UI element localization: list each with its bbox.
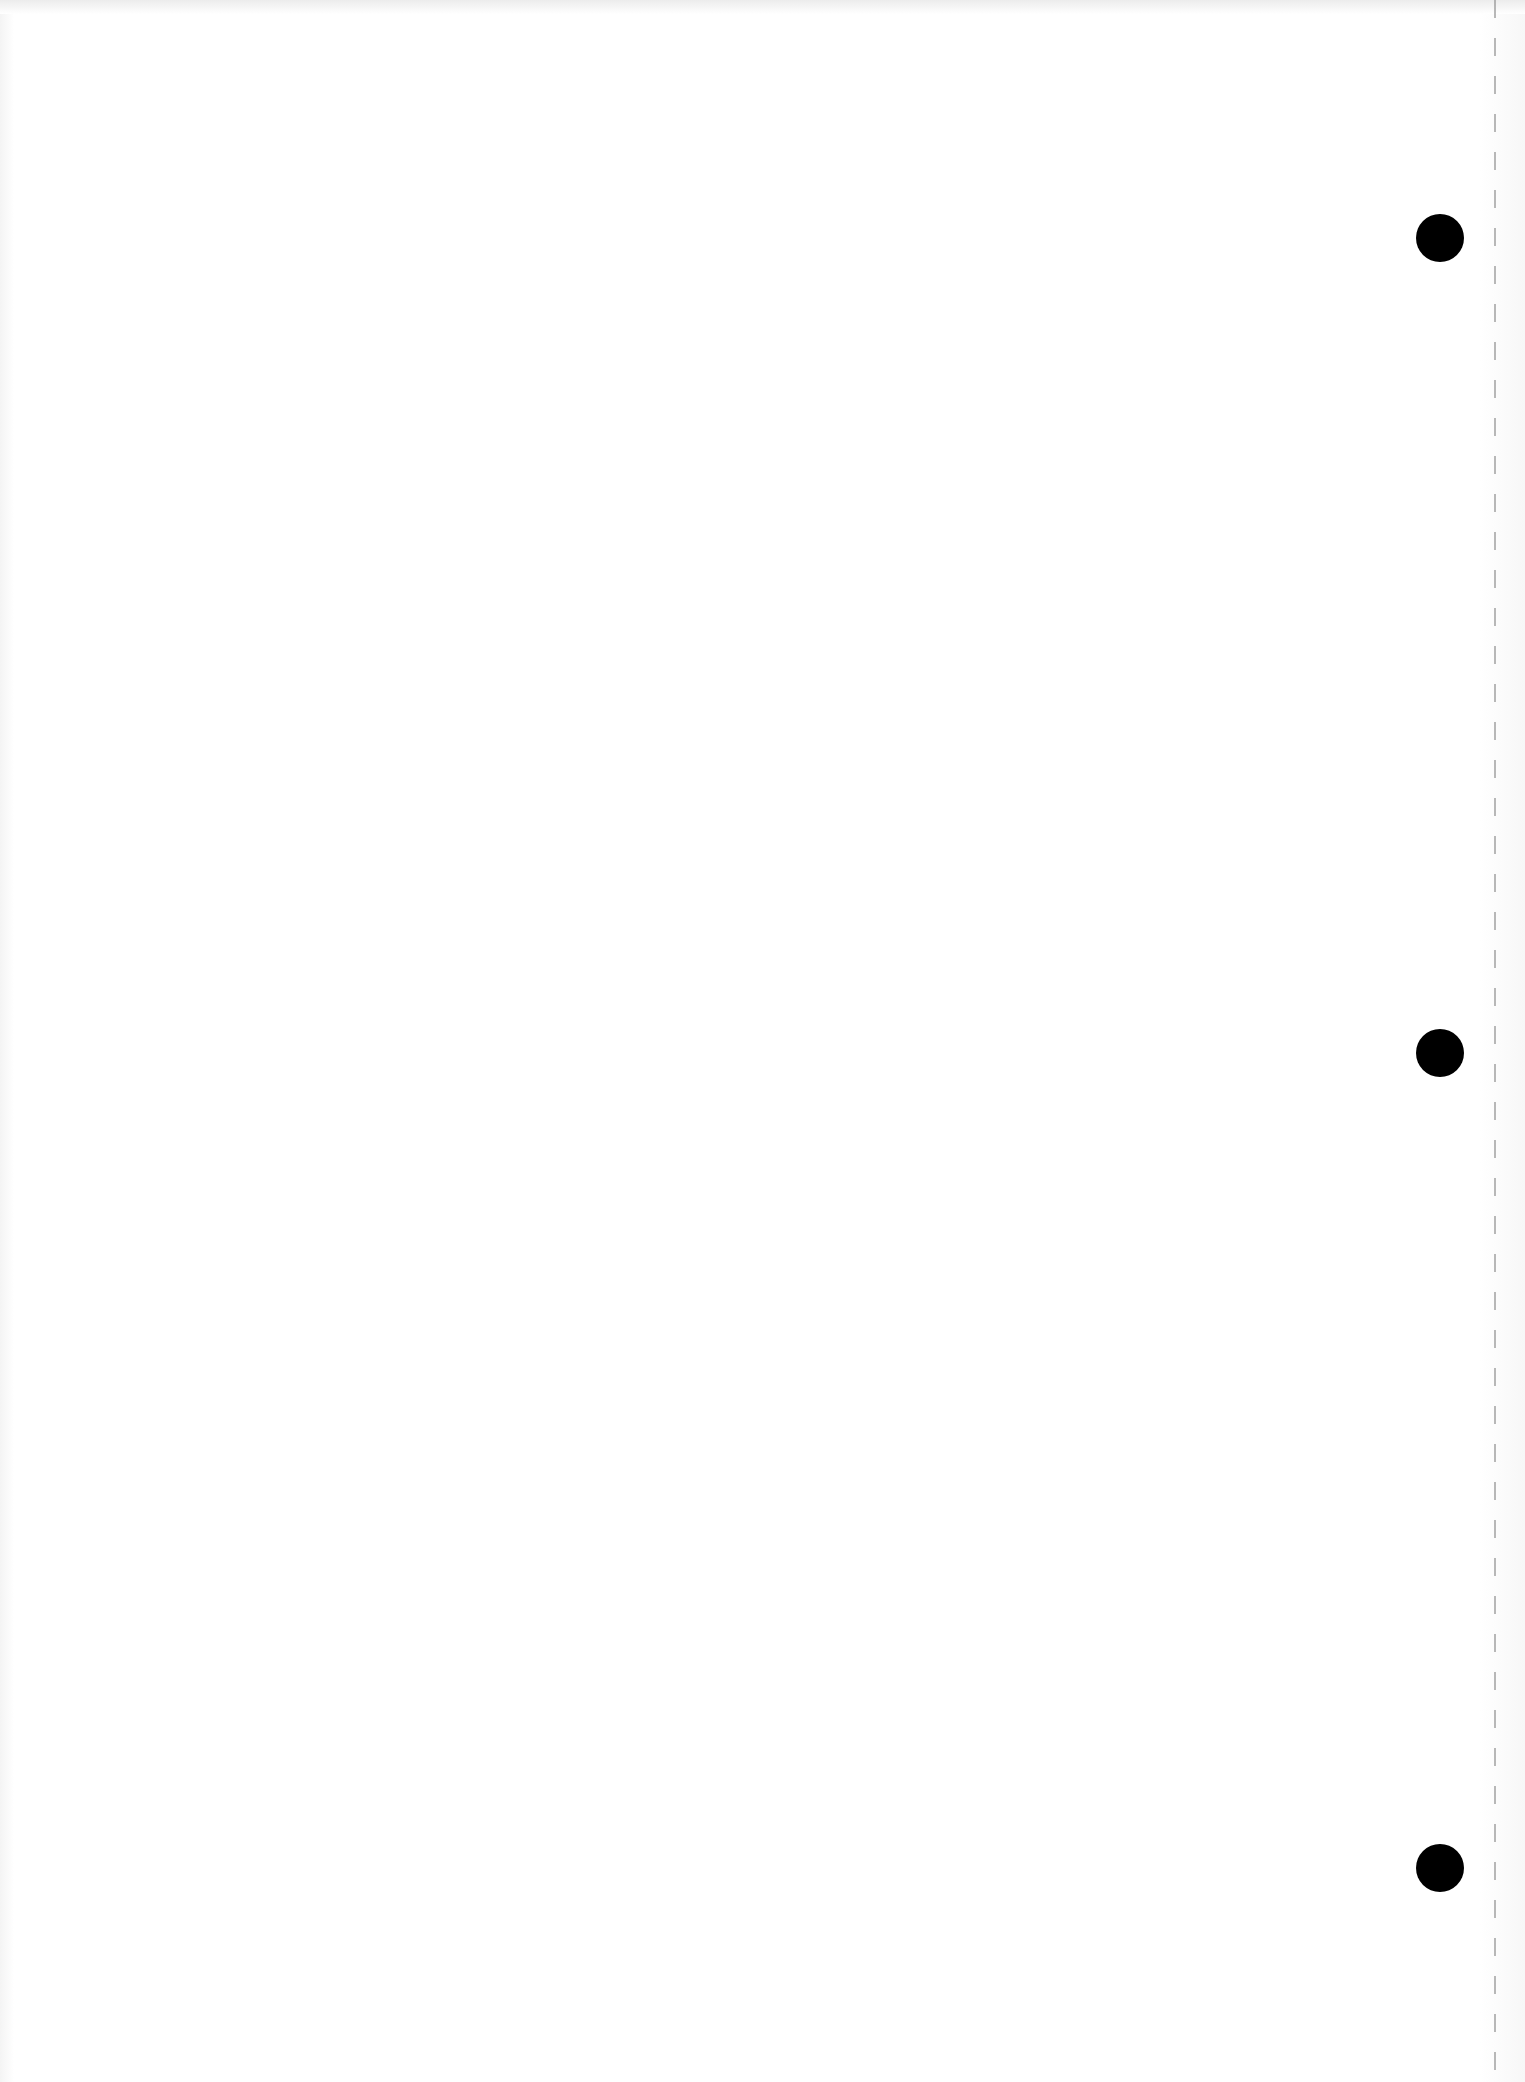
punch-hole-middle (1416, 1029, 1464, 1077)
punch-hole-top (1416, 214, 1464, 262)
blank-page (0, 0, 1525, 2082)
perforation-line (1494, 0, 1496, 2082)
scan-edge-shadow (0, 0, 1525, 14)
punch-hole-bottom (1416, 1844, 1464, 1892)
